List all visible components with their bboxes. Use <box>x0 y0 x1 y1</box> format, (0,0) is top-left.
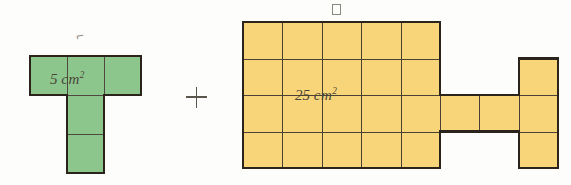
grid-cell <box>401 95 441 133</box>
grid-cell <box>401 22 441 60</box>
grid-cell <box>67 95 105 135</box>
grid-cell <box>243 59 283 97</box>
area-value: 25 <box>295 87 314 103</box>
grid-cell <box>519 132 559 170</box>
yellow-area-label: 25 cm2 <box>295 86 337 104</box>
green-figure-tag: ⌐ <box>75 28 85 44</box>
grid-cell <box>440 95 480 133</box>
grid-cell <box>361 22 401 60</box>
grid-cell <box>361 95 401 133</box>
grid-cell <box>361 59 401 97</box>
grid-cell <box>243 22 283 60</box>
yellow-figure-tag <box>332 4 341 15</box>
grid-cell <box>243 132 283 170</box>
grid-cell <box>401 59 441 97</box>
area-value: 5 <box>50 71 61 87</box>
green-grid-figure <box>30 56 141 173</box>
area-unit: cm2 <box>61 71 85 87</box>
grid-cell <box>519 95 559 133</box>
figure-canvas: 5 cm2 ⌐ 25 cm2 <box>0 0 571 185</box>
grid-cell <box>282 22 322 60</box>
grid-cell <box>282 132 322 170</box>
grid-cell <box>67 134 105 174</box>
grid-cell <box>519 59 559 97</box>
grid-cell <box>361 132 401 170</box>
yellow-grid-figure <box>243 22 558 168</box>
grid-cell <box>322 132 362 170</box>
grid-cell <box>243 95 283 133</box>
grid-cell <box>104 56 142 96</box>
grid-cell <box>401 132 441 170</box>
area-exponent: 2 <box>332 86 337 96</box>
green-area-label: 5 cm2 <box>50 70 85 88</box>
grid-cell <box>322 22 362 60</box>
area-unit: cm2 <box>314 87 338 103</box>
plus-vertical-bar <box>196 87 198 108</box>
area-exponent: 2 <box>80 70 85 80</box>
grid-cell <box>479 95 519 133</box>
plus-sign-icon <box>186 87 207 108</box>
